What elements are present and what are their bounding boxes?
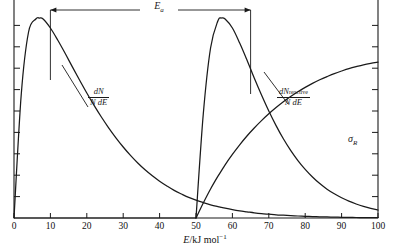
distribution-curve-label: dN N dE: [88, 87, 109, 108]
cross-section-label: σR: [348, 134, 357, 147]
x-axis-title-units: /kJ mol: [189, 234, 219, 245]
activation-energy-subscript: a: [160, 6, 164, 14]
reactive-curve-label: dNreactive N dE: [277, 87, 310, 108]
reactive-denominator: N dE: [277, 98, 310, 108]
distribution-fraction: dN N dE: [88, 87, 109, 107]
x-tick-label-100: 100: [371, 222, 385, 232]
reactive-numerator: dNreactive: [277, 87, 310, 98]
reactive-numerator-main: dN: [279, 86, 289, 96]
x-tick-label-50: 50: [191, 222, 201, 232]
distribution-numerator: dN: [88, 87, 109, 98]
x-tick-label-80: 80: [300, 222, 310, 232]
plot-area: [0, 0, 411, 251]
plot-graphics: [14, 0, 378, 218]
reactive-numerator-subscript: reactive: [289, 89, 308, 95]
x-tick-label-10: 10: [46, 222, 56, 232]
x-tick-label-90: 90: [337, 222, 347, 232]
x-tick-label-60: 60: [228, 222, 238, 232]
curve-dn-reactive-n-de: [196, 18, 378, 218]
curve-dn-n-de: [14, 18, 378, 218]
x-axis-title-exponent: −1: [219, 233, 226, 241]
x-tick-label-20: 20: [82, 222, 92, 232]
distribution-denominator: N dE: [88, 98, 109, 108]
cross-section-subscript: R: [353, 139, 357, 147]
ea-arrowhead-left: [50, 7, 56, 12]
x-tick-label-70: 70: [264, 222, 274, 232]
x-axis-title: E/kJ mol−1: [183, 234, 226, 245]
x-tick-label-40: 40: [155, 222, 165, 232]
x-tick-label-30: 30: [118, 222, 128, 232]
activation-energy-label: Ea: [154, 1, 164, 14]
reactive-fraction: dNreactive N dE: [277, 87, 310, 107]
x-tick-label-0: 0: [12, 222, 17, 232]
ea-arrowhead-right: [245, 7, 251, 12]
figure-canvas: 0 10 20 30 40 50 60 70 80 90 100 E/kJ mo…: [0, 0, 411, 251]
